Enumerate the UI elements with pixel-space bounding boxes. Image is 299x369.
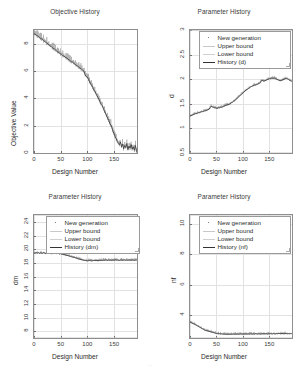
y-tick-mark [34,153,36,154]
y-tick-label: 2.5 [176,51,188,57]
y-tick-label: 2 [20,122,32,128]
line-swatch-icon [49,227,62,235]
chart-title: Objective History [0,8,150,15]
x-axis-label: Design Number [0,353,150,360]
legend-resize-handle-icon[interactable] [135,248,139,252]
x-tick-label: 150 [109,341,119,347]
x-tick-label: 100 [238,341,248,347]
x-tick-label: 100 [82,341,92,347]
legend-row-lower-bound: Lower bound [202,50,287,58]
y-tick-label: 1.5 [176,100,188,106]
line-swatch-icon [202,50,215,58]
x-tick-label: 150 [264,156,274,162]
y-tick-label: 24 [20,218,32,224]
line-swatch-icon [49,243,62,251]
y-axis-label: Objective Value [10,100,17,146]
chart-legend[interactable]: New generation Upper bound Lower bound H… [46,216,140,254]
new-generation-scatter [190,321,291,335]
legend-row-upper-bound: Upper bound [202,227,287,235]
history-line [190,78,291,116]
y-tick-label: 12 [20,300,32,306]
y-tick-label: 14 [20,286,32,292]
legend-label: New generation [218,34,261,42]
x-tick-label: 150 [109,156,119,162]
y-tick-label: 16 [20,273,32,279]
legend-label: New generation [218,219,261,227]
y-tick-label: 1 [176,124,188,130]
legend-label: Upper bound [218,42,254,50]
legend-label: History (dm) [65,243,99,251]
y-tick-label: 8 [20,327,32,333]
panel-parameter-history-d: Parameter History Design Number d New ge… [149,8,299,185]
x-tick-label: 0 [32,156,35,162]
x-tick-label: 100 [82,156,92,162]
legend-row-new-generation: New generation [202,34,287,42]
legend-row-upper-bound: Upper bound [202,42,287,50]
gridline-horizontal [34,153,137,154]
figure-canvas: Objective History Design Number Objectiv… [0,0,299,369]
x-tick-label: 50 [57,156,64,162]
line-swatch-icon [202,227,215,235]
y-tick-label: 0.5 [176,149,188,155]
y-axis-label: d [168,94,175,98]
panel-objective-history: Objective History Design Number Objectiv… [0,8,150,185]
x-tick-label: 50 [213,341,220,347]
legend-row-history: History (d) [202,58,287,66]
y-tick-label: 4 [20,94,32,100]
line-swatch-icon [202,235,215,243]
y-tick-label: 10 [176,220,188,226]
legend-label: Lower bound [65,235,101,243]
x-tick-label: 0 [32,341,35,347]
x-tick-label: 50 [57,341,64,347]
y-tick-label: 20 [20,245,32,251]
legend-label: Upper bound [218,227,254,235]
footer-artifact: .. [148,361,152,367]
panel-parameter-history-nf: Parameter History Design Number nf New g… [149,193,299,369]
legend-row-history: History (dm) [49,243,136,251]
chart-title: Parameter History [149,8,299,15]
legend-resize-handle-icon[interactable] [286,63,290,67]
line-swatch-icon [49,235,62,243]
y-axis-label: dm [12,276,19,285]
legend-label: New generation [65,219,108,227]
legend-label: History (d) [218,58,247,66]
history-line [34,34,136,152]
x-tick-label: 50 [213,156,220,162]
y-tick-label: 18 [20,259,32,265]
legend-row-new-generation: New generation [202,219,287,227]
line-swatch-icon [202,58,215,66]
scatter-marker-icon [202,219,215,227]
scatter-marker-icon [202,34,215,42]
y-tick-label: 4 [176,311,188,317]
legend-row-lower-bound: Lower bound [49,235,136,243]
x-axis-label: Design Number [149,353,299,360]
legend-resize-handle-icon[interactable] [286,248,290,252]
chart-title: Parameter History [149,193,299,200]
legend-label: Upper bound [65,227,101,235]
x-tick-label: 150 [264,341,274,347]
x-axis-label: Design Number [0,168,150,175]
x-tick-label: 100 [238,156,248,162]
chart-legend[interactable]: New generation Upper bound Lower bound H… [199,216,291,254]
y-tick-label: 3 [176,26,188,32]
legend-row-history: History (nf) [202,243,287,251]
y-tick-mark [190,153,192,154]
series-layer [34,30,137,153]
legend-label: History (nf) [218,243,248,251]
chart-legend[interactable]: New generation Upper bound Lower bound H… [199,31,291,69]
y-tick-label: 8 [20,40,32,46]
new-generation-scatter [34,30,136,153]
x-tick-label: 0 [188,341,191,347]
legend-row-upper-bound: Upper bound [49,227,136,235]
line-swatch-icon [202,42,215,50]
legend-row-new-generation: New generation [49,219,136,227]
x-tick-label: 0 [188,156,191,162]
x-axis-label: Design Number [149,168,299,175]
y-tick-label: 6 [20,67,32,73]
y-tick-label: 0 [20,149,32,155]
legend-label: Lower bound [218,50,254,58]
panel-parameter-history-dm: Parameter History Design Number dm New g… [0,193,150,369]
plot-area [33,29,138,154]
y-tick-label: 6 [176,281,188,287]
y-tick-label: 2 [176,75,188,81]
